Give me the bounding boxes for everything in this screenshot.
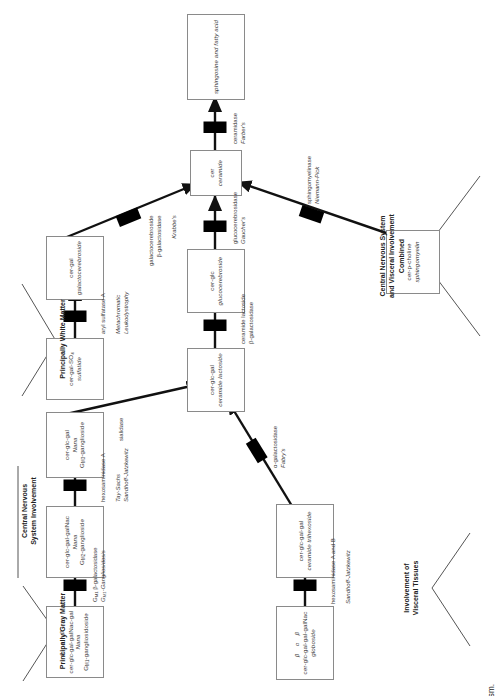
- enzyme-name-sialidase: sialidase: [118, 418, 126, 441]
- node-sulfatide-line1: cer-gal-SO₄: [67, 352, 75, 386]
- enzyme-block-glucocerebrosidase: [204, 221, 227, 233]
- zone-label-cns-visceral: Central Nervous System and Visceral Invo…: [378, 184, 406, 328]
- node-globoside-line2: globoside: [309, 629, 317, 656]
- figure-caption: Figure 7-1. Diseases of sphingolipid met…: [487, 684, 496, 696]
- node-trihexoside-line1: cer-glc-gal-gal: [297, 521, 305, 562]
- node-gm3-line1: cer-glc-gal: [63, 430, 71, 460]
- enzyme-label-glucocerebrosidase: glucocerebrosidase Gaucher's: [232, 192, 248, 244]
- node-sphingosine: sphingosine and fatty acid: [187, 14, 245, 100]
- disease-name-farber: Farber's: [240, 113, 248, 144]
- node-gm3-line2: Nana: [71, 437, 79, 452]
- disease-name-krabbe: Krabbe's: [171, 215, 179, 266]
- node-globoside: β α β cer-glc-gal-gal-galNac globoside: [276, 606, 334, 680]
- node-sulfatide: cer-gal-SO₄ sulfatide: [46, 338, 104, 400]
- zone-label-white-matter: Principally White Matter: [58, 287, 67, 391]
- node-gm2-line2: Nana: [71, 534, 79, 549]
- node-sphingomyelin-line2: sphingomyelin: [413, 242, 421, 283]
- enzyme-block-ceramidase: [204, 122, 227, 134]
- enzyme-block-ceramide-lactosidase: [204, 320, 227, 332]
- node-gm3-line3: GM3-ganglioside: [78, 422, 87, 468]
- enzyme-label-sialidase: sialidase: [118, 418, 126, 441]
- node-glucocerebroside-line1: cer-glc: [208, 271, 216, 290]
- node-lactoside-line2: ceramide lactoside: [216, 353, 224, 406]
- enzyme-label-ceramidase: ceramidase Farber's: [232, 113, 248, 144]
- enzyme-label-galactocerebrosidase: galactocerebroside β-galactosidase Krabb…: [140, 215, 187, 266]
- node-gm1: β α β cer-glc-gal-galNac-gal Nana GM1-ga…: [46, 606, 104, 678]
- enzyme-name-glucocerebrosidase: glucocerebrosidase: [232, 192, 240, 244]
- node-gm1-line3: GM1-gangliosidoside: [82, 613, 91, 671]
- node-galactocerebroside-line2: galactocerebroside: [75, 241, 83, 295]
- node-lactoside-line1: cer-glc-gal: [208, 365, 216, 395]
- enzyme-label-gm1-beta-galactosidase: GM1 β-galactosidase GM1-Gangliosidosis: [92, 548, 108, 602]
- zone-label-cns-involvement: Central Nervous System Involvement: [20, 456, 39, 566]
- disease-name-fabry: Fabry's: [280, 426, 288, 468]
- enzyme-block-hexosaminidase-a: [64, 480, 87, 492]
- enzyme-label-hexosaminidase-ab: hexosaminidase A and B Sandhoff-Jatzkewi…: [322, 538, 361, 604]
- node-glucocerebroside-line2: glucocerebroside: [216, 257, 224, 306]
- node-ceramide: cer ceramide: [190, 150, 242, 196]
- node-galactocerebroside: cer-gal galactocerebroside: [46, 236, 104, 300]
- disease-name-gaucher: Gaucher's: [240, 192, 248, 244]
- enzyme-name-aryl-sulfatase-a: aryl sulfatase A: [100, 292, 108, 334]
- enzyme-name-ceramide-lactosidase: ceramide lactoside β-galactosidase: [240, 294, 256, 344]
- node-sphingomyelin-line1: cer-p-choline: [405, 243, 413, 280]
- figure-caption-text: Diseases of sphingolipid metabolism.: [487, 684, 496, 696]
- zone-bracket-visceral: [432, 533, 470, 646]
- disease-name-metachromatic-leukodystrophy: Metachromatic Leukodystrophy: [115, 292, 131, 334]
- enzyme-name-alpha-galactosidase: α-galactosidase: [272, 426, 280, 468]
- node-galactocerebroside-line1: cer-gal: [67, 258, 75, 278]
- node-trihexoside-line2: ceramide trihexoside: [305, 511, 313, 570]
- enzyme-label-ceramide-lactosidase: ceramide lactoside β-galactosidase: [232, 294, 263, 344]
- disease-name-gm1-gangliosidosis: GM1-Gangliosidosis: [100, 548, 108, 602]
- disease-name-niemann-pick: Niemann-Pick: [314, 156, 322, 204]
- enzyme-label-sphingomyelinase: sphingomyelinase Niemann-Pick: [306, 156, 322, 204]
- node-gm1-line1: cer-glc-gal-galNac-gal: [67, 611, 75, 674]
- enzyme-name-ceramidase: ceramidase: [232, 113, 240, 144]
- zone-label-gray-matter: Principally Gray Matter: [58, 588, 67, 674]
- node-globoside-bonds: β α β: [294, 629, 301, 657]
- enzyme-name-galactocerebrosidase: galactocerebroside β-galactosidase: [148, 215, 164, 266]
- node-gm2-line3: GM2-ganglioside: [78, 519, 87, 565]
- enzyme-label-alpha-galactosidase: α-galactosidase Fabry's: [272, 426, 288, 468]
- enzyme-label-aryl-sulfatase-a: aryl sulfatase A Metachromatic Leukodyst…: [92, 292, 139, 334]
- enzyme-name-sphingomyelinase: sphingomyelinase: [306, 156, 314, 204]
- node-sulfatide-line2: sulfatide: [75, 357, 83, 381]
- node-globoside-line1: cer-glc-gal-gal-galNac: [301, 612, 309, 675]
- zone-label-visceral: Involvement of Visceral Tissues: [402, 536, 421, 640]
- node-ceramide-line1: cer: [208, 169, 216, 178]
- enzyme-name-gm1-beta-galactosidase: GM1 β-galactosidase: [92, 548, 100, 602]
- node-gm1-line2: Nana: [74, 634, 82, 649]
- sphingolipid-pathway-figure: β α β cer-glc-gal-galNac-gal Nana GM1-ga…: [0, 0, 502, 696]
- enzyme-name-hexosaminidase-a: hexosaminidase A: [100, 448, 108, 502]
- node-sphingosine-line1: sphingosine and fatty acid: [212, 20, 220, 94]
- node-lactoside: cer-glc-gal ceramide lactoside: [187, 348, 245, 412]
- enzyme-label-hexosaminidase-a: hexosaminidase A Tay-Sachs Sandhoff-Jatz…: [92, 448, 139, 502]
- enzyme-block-hexosaminidase-ab: [294, 580, 317, 592]
- enzyme-name-hexosaminidase-ab: hexosaminidase A and B: [330, 538, 338, 604]
- disease-name-sandhoff-jatzkewitz: Sandhoff-Jatzkewitz: [345, 538, 353, 604]
- node-gm2-line1: cer-glc-gal-galNac: [63, 516, 71, 568]
- node-ceramide-line2: ceramide: [216, 160, 224, 186]
- disease-name-tay-sachs: Tay-Sachs Sandhoff-Jatzkewitz: [115, 448, 131, 502]
